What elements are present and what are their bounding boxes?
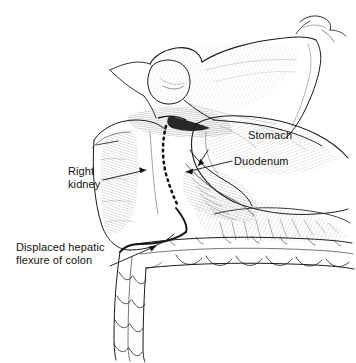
label-right-kidney: Right kidney	[68, 165, 100, 190]
anatomy-illustration	[0, 0, 356, 363]
label-duodenum: Duodenum	[234, 155, 289, 168]
anatomical-figure: Stomach Duodenum Right kidney Displaced …	[0, 0, 356, 363]
label-colon-line2: flexure of colon	[16, 254, 105, 267]
label-right-kidney-line1: Right	[68, 165, 100, 178]
label-stomach: Stomach	[248, 129, 292, 142]
label-colon-line1: Displaced hepatic	[16, 241, 105, 254]
label-right-kidney-line2: kidney	[68, 178, 100, 191]
label-displaced-hepatic-flexure-of-colon: Displaced hepatic flexure of colon	[16, 241, 105, 266]
